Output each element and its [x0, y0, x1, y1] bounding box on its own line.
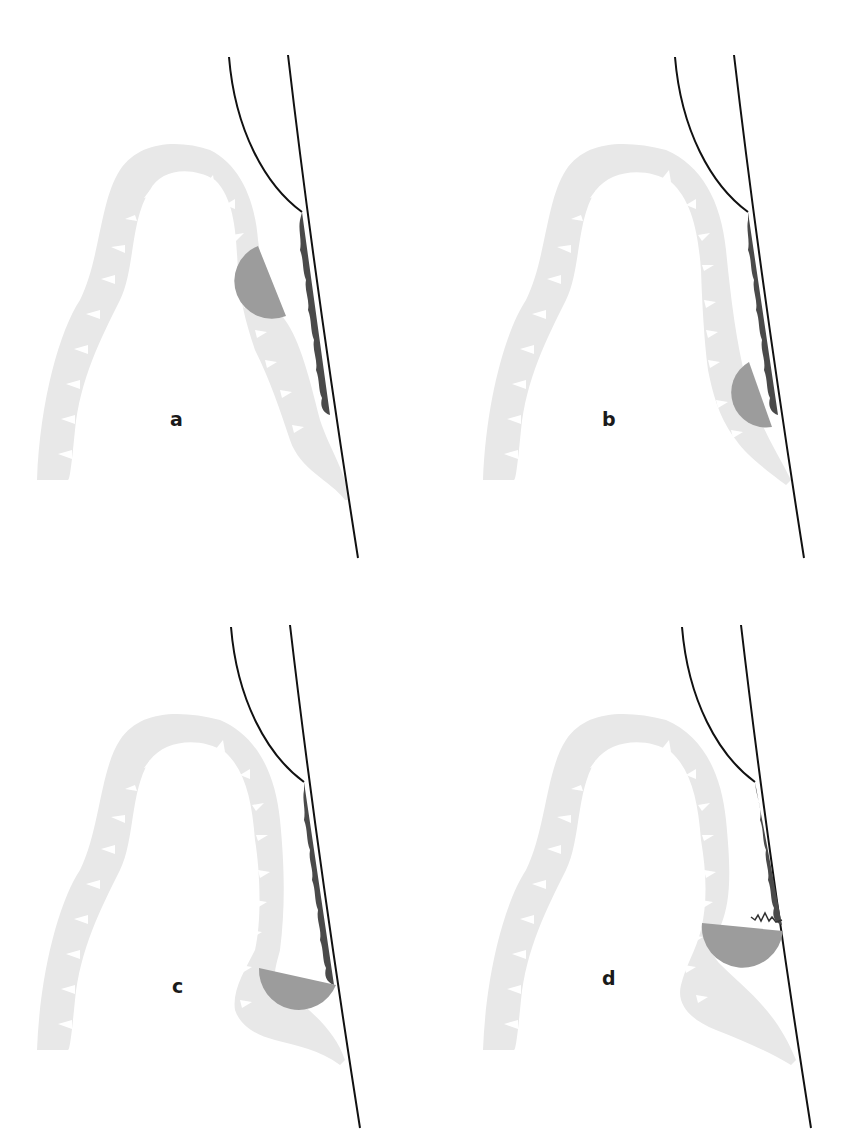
panel-c: c: [0, 570, 420, 1140]
panel-c-diagram: [0, 570, 420, 1140]
dark-band: [303, 782, 334, 985]
panel-d: d: [446, 570, 843, 1140]
panel-a-diagram: [0, 0, 420, 570]
panel-label-b: b: [602, 408, 616, 430]
straight-boundary-line: [288, 55, 358, 558]
membrane-fold: [483, 144, 791, 485]
straight-boundary-line: [734, 55, 804, 558]
panel-b: b: [446, 0, 843, 570]
membrane-fold: [483, 714, 796, 1065]
panel-label-d: d: [602, 967, 616, 989]
panel-d-diagram: [446, 570, 843, 1140]
membrane-fold: [37, 714, 345, 1065]
membrane-fold: [37, 144, 350, 500]
panel-a: a: [0, 0, 420, 570]
panel-label-a: a: [170, 408, 183, 430]
panel-label-c: c: [172, 975, 183, 997]
panel-b-diagram: [446, 0, 843, 570]
